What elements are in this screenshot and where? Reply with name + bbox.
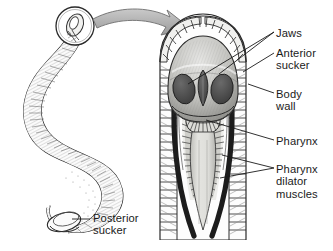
label-pharynx: Pharynx xyxy=(276,135,318,147)
label-body-wall: Body wall xyxy=(276,88,302,113)
anterior-sucker-magnifier xyxy=(56,7,94,45)
label-jaws: Jaws xyxy=(276,27,302,39)
label-anterior-sucker: Anterior sucker xyxy=(276,47,316,72)
anterior-dissection-cross-section xyxy=(160,14,250,240)
label-posterior-sucker: Posterior sucker xyxy=(93,212,139,237)
label-pharynx-dilator-muscles: Pharynx dilator muscles xyxy=(276,163,318,200)
